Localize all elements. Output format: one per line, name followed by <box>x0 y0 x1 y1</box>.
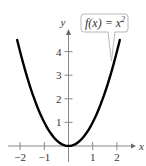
axes: xy <box>8 16 144 162</box>
y-tick-label: 4 <box>56 46 62 58</box>
y-tick-label: 3 <box>56 69 62 81</box>
x-tick-label: 1 <box>90 151 96 163</box>
x-tick-label: −1 <box>38 151 50 163</box>
chart: xy −2−1121234 f(x) = x2 <box>0 0 146 166</box>
callout-label-superscript: 2 <box>121 15 125 24</box>
callout-label: f(x) = x2 <box>85 15 125 30</box>
y-tick-label: 2 <box>56 93 62 105</box>
function-callout: f(x) = x2 <box>81 14 128 61</box>
y-axis-label: y <box>60 16 66 28</box>
callout-label-main: f(x) = x <box>85 16 122 30</box>
x-axis-label: x <box>138 140 144 152</box>
x-tick-label: 2 <box>114 151 120 163</box>
y-tick-label: 1 <box>56 116 62 128</box>
y-axis-arrow <box>66 29 71 35</box>
x-tick-label: −2 <box>14 151 26 163</box>
x-axis-arrow <box>131 144 136 149</box>
